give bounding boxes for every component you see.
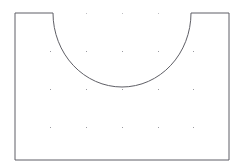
grid-dot <box>122 127 123 128</box>
diagram-canvas <box>0 0 243 168</box>
grid-dot <box>86 89 87 90</box>
grid-dot <box>122 89 123 90</box>
grid-dot <box>50 127 51 128</box>
grid-dot <box>86 51 87 52</box>
grid-dot <box>158 89 159 90</box>
grid-dot <box>86 127 87 128</box>
grid-dot <box>122 51 123 52</box>
grid-dot <box>193 127 194 128</box>
grid-dot <box>158 127 159 128</box>
grid-dot <box>122 13 123 14</box>
grid-dot <box>50 89 51 90</box>
shape-outline-svg <box>0 0 243 168</box>
grid-dot <box>50 51 51 52</box>
grid-dot <box>158 13 159 14</box>
grid-dot <box>86 13 87 14</box>
grid-dot <box>158 51 159 52</box>
rectangle-with-semicircular-notch-path <box>15 13 229 160</box>
grid-dot <box>193 89 194 90</box>
grid-dot <box>193 51 194 52</box>
